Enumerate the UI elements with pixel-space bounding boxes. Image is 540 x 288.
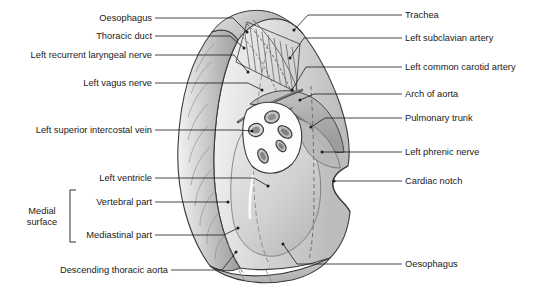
label-trachea: Trachea <box>405 10 439 21</box>
medial-surface-bracket <box>70 190 76 242</box>
lung-body <box>178 10 350 282</box>
label-left-superior-intercostal-vein: Left superior intercostal vein <box>36 125 152 136</box>
label-mediastinal-part: Mediastinal part <box>86 230 152 241</box>
leader-dot <box>251 130 254 133</box>
leader-dot <box>282 243 285 246</box>
leader-dot <box>243 47 246 50</box>
label-arch-of-aorta: Arch of aorta <box>405 89 458 100</box>
leader-dot <box>246 31 249 34</box>
label-vertebral-part: Vertebral part <box>96 197 152 208</box>
label-pulmonary-trunk: Pulmonary trunk <box>405 113 473 124</box>
leader-dot <box>247 71 250 74</box>
anatomy-diagram: OesophagusThoracic ductLeft recurrent la… <box>0 0 540 288</box>
label-descending-thoracic-aorta: Descending thoracic aorta <box>60 265 168 276</box>
label-left-ventricle: Left ventricle <box>99 173 152 184</box>
label-left-subclavian-artery: Left subclavian artery <box>405 33 493 44</box>
label-left-common-carotid-artery: Left common carotid artery <box>405 62 516 73</box>
medial-surface-label-line-1: Medial <box>27 206 58 217</box>
label-oesophagus-inferior: Oesophagus <box>405 259 458 270</box>
leader-dot <box>289 57 292 60</box>
leader-dot <box>310 126 313 129</box>
leader-dot <box>321 151 324 154</box>
leader-dot <box>261 89 264 92</box>
leader-dot <box>291 89 294 92</box>
bracket-path <box>70 190 76 242</box>
medial-surface-label-line-2: surface <box>27 217 58 228</box>
label-left-phrenic-nerve: Left phrenic nerve <box>405 147 479 158</box>
leader-dot <box>237 227 240 230</box>
leader-dot <box>299 99 302 102</box>
label-left-vagus-nerve: Left vagus nerve <box>83 78 152 89</box>
label-left-recurrent-laryngeal-nerve: Left recurrent laryngeal nerve <box>31 50 152 61</box>
leader-line <box>294 15 402 30</box>
label-cardiac-notch: Cardiac notch <box>405 176 462 187</box>
leader-dot <box>235 251 238 254</box>
label-oesophagus-superior: Oesophagus <box>99 13 152 24</box>
label-thoracic-duct: Thoracic duct <box>96 31 152 42</box>
leader-dot <box>227 201 230 204</box>
medial-surface-label: Medialsurface <box>27 206 58 228</box>
leader-dot <box>293 29 296 32</box>
leader-dot <box>333 180 336 183</box>
leader-dot <box>267 185 270 188</box>
